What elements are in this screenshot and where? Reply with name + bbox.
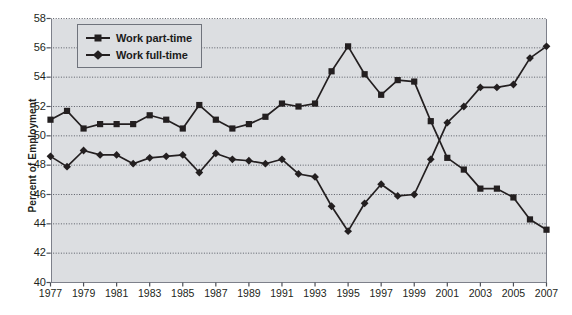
- x-axis-tick-label: 2007: [527, 288, 567, 299]
- legend-square-marker-icon: [85, 32, 111, 44]
- data-point-marker: [180, 125, 186, 131]
- data-point-marker: [411, 78, 417, 84]
- legend-label-part-time: Work part-time: [116, 32, 192, 44]
- data-point-marker: [395, 77, 401, 83]
- data-point-marker: [262, 114, 268, 120]
- data-point-marker: [295, 103, 301, 109]
- data-point-marker: [428, 118, 434, 124]
- data-point-marker: [543, 227, 549, 233]
- data-point-marker: [97, 121, 103, 127]
- series-line-full-time: [51, 46, 547, 231]
- legend-label-full-time: Work full-time: [116, 49, 188, 61]
- data-point-marker: [163, 117, 169, 123]
- data-point-marker: [196, 102, 202, 108]
- data-point-marker: [477, 186, 483, 192]
- data-point-marker: [213, 117, 219, 123]
- series-line-part-time: [51, 46, 547, 229]
- data-point-marker: [162, 152, 170, 160]
- chart-legend: Work part-time Work full-time: [77, 24, 202, 68]
- chart-container: Percent of Employment 404244464850525456…: [0, 0, 572, 315]
- data-point-marker: [229, 125, 235, 131]
- data-point-marker: [130, 121, 136, 127]
- data-point-marker: [47, 117, 53, 123]
- data-point-marker: [96, 151, 104, 159]
- data-point-marker: [328, 68, 334, 74]
- legend-item-part-time: Work part-time: [85, 29, 192, 46]
- data-point-marker: [312, 100, 318, 106]
- data-point-marker: [246, 121, 252, 127]
- data-point-marker: [427, 155, 435, 163]
- data-point-marker: [461, 166, 467, 172]
- data-point-marker: [262, 160, 270, 168]
- data-point-marker: [378, 92, 384, 98]
- data-point-marker: [494, 186, 500, 192]
- data-point-marker: [410, 191, 418, 199]
- data-point-marker: [279, 100, 285, 106]
- data-point-marker: [527, 216, 533, 222]
- data-point-marker: [444, 155, 450, 161]
- data-point-marker: [228, 155, 236, 163]
- data-point-marker: [80, 125, 86, 131]
- data-point-marker: [345, 43, 351, 49]
- data-point-marker: [510, 81, 518, 89]
- data-point-marker: [113, 151, 121, 159]
- data-point-marker: [493, 84, 501, 92]
- data-point-marker: [362, 71, 368, 77]
- data-point-marker: [146, 154, 154, 162]
- legend-diamond-marker-icon: [85, 49, 111, 61]
- data-point-marker: [147, 112, 153, 118]
- data-point-marker: [245, 157, 253, 165]
- data-point-marker: [510, 194, 516, 200]
- data-point-marker: [47, 152, 55, 160]
- legend-item-full-time: Work full-time: [85, 46, 192, 63]
- data-point-marker: [114, 121, 120, 127]
- data-point-marker: [311, 173, 319, 181]
- data-point-marker: [129, 160, 137, 168]
- data-point-marker: [64, 108, 70, 114]
